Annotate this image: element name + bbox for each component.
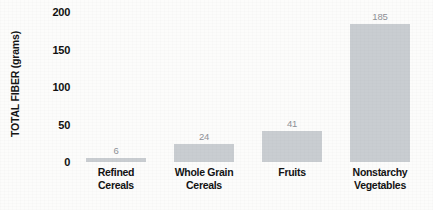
bar [350,24,410,162]
bar-group: 24 [174,12,234,162]
bar [174,144,234,162]
y-axis-title: TOTAL FIBER (grams) [4,0,26,168]
x-axis-category-labels: RefinedCerealsWhole GrainCerealsFruitsNo… [72,166,424,206]
y-axis-tick-label: 0 [64,157,70,168]
bar-chart: TOTAL FIBER (grams) 050100150200 6244118… [0,0,433,210]
x-axis-category-label: Whole GrainCereals [160,166,248,191]
bar-value-label: 6 [113,146,118,156]
x-axis-category-label-line: Vegetables [336,179,424,192]
bar-value-label: 41 [287,119,297,129]
bar-value-label: 24 [199,132,209,142]
y-axis-tick-label: 150 [53,44,70,55]
y-axis-tick-label: 100 [53,82,70,93]
x-axis-category-label-line: Nonstarchy [336,166,424,179]
bar [262,131,322,162]
bar-group: 6 [86,12,146,162]
x-axis-category-label-line: Fruits [248,166,336,179]
bar-group: 185 [350,12,410,162]
y-axis-tick-label: 50 [58,119,70,130]
y-axis-title-text: TOTAL FIBER (grams) [9,31,21,137]
bar-group: 41 [262,12,322,162]
bar [86,158,146,163]
y-axis-tick-label: 200 [53,7,70,18]
x-axis-category-label-line: Whole Grain [160,166,248,179]
plot-area: 62441185 [72,12,424,162]
x-axis-category-label-line: Cereals [72,179,160,192]
x-axis-category-label-line: Refined [72,166,160,179]
x-axis-category-label: NonstarchyVegetables [336,166,424,191]
x-axis-category-label-line: Cereals [160,179,248,192]
bar-value-label: 185 [372,12,387,22]
x-axis-category-label: RefinedCereals [72,166,160,191]
x-axis-category-label: Fruits [248,166,336,179]
y-axis-tick-labels: 050100150200 [26,0,70,168]
